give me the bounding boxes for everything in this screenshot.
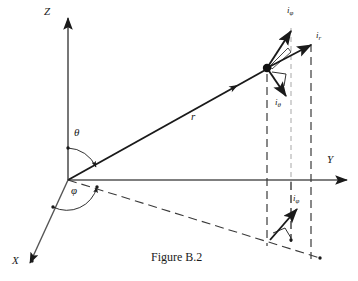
i-phi-lower-label-sub: φ — [296, 197, 300, 205]
i-phi-upper-label-sub: φ — [290, 9, 294, 17]
dot-phi-arc-xy — [95, 185, 98, 188]
coordinate-system-diagram — [0, 0, 358, 281]
point-p-marker — [263, 64, 271, 72]
i-theta-label: iθ — [275, 98, 281, 107]
figure-container: Z Y X θ φ r iφ ir iθ iφ Figure B.2 — [0, 0, 358, 281]
theta-angle-label: θ — [74, 127, 79, 138]
r-vector-label: r — [191, 111, 195, 122]
dot-projection-end — [318, 256, 321, 259]
r-vector-line — [68, 69, 268, 181]
i-theta-label-sub: θ — [278, 101, 281, 109]
dot-z-axis-end — [66, 21, 69, 24]
y-axis-label: Y — [327, 154, 333, 165]
theta-arc — [68, 148, 96, 167]
dot-theta-arc-start — [66, 146, 69, 149]
axes-group — [30, 18, 347, 263]
r-vector-arrowhead — [229, 82, 240, 92]
tick-dots-group — [30, 21, 342, 262]
i-phi-upper-label: iφ — [287, 6, 293, 15]
i-phi-lower-label: iφ — [293, 194, 299, 203]
i-r-label-sub: r — [319, 34, 322, 42]
i-r-label: ir — [316, 31, 321, 40]
projection-lines-group — [68, 28, 320, 259]
x-axis-label: X — [12, 255, 19, 266]
x-axis-line — [30, 180, 68, 263]
dot-y-axis-end — [339, 178, 342, 181]
dot-projection-base — [289, 238, 292, 241]
unit-vectors-group — [267, 31, 311, 240]
i-phi-lower-arrow — [270, 209, 297, 240]
figure-caption: Figure B.2 — [151, 250, 202, 265]
phi-angle-label: φ — [71, 185, 77, 196]
z-axis-label: Z — [44, 6, 50, 17]
dot-phi-arc-x — [51, 205, 54, 208]
dot-x-axis-end — [30, 259, 33, 262]
r-vector-group — [68, 69, 268, 181]
angle-arcs-group — [53, 148, 97, 210]
xy-projection-line — [68, 180, 320, 258]
